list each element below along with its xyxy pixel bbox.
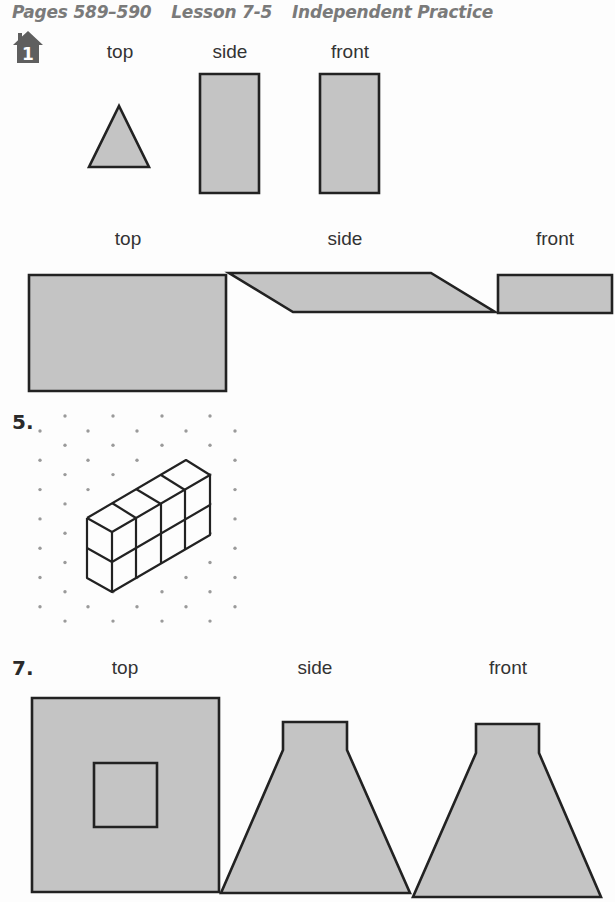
grid-dot [233,576,236,579]
grid-dot [86,605,89,608]
grid-dot [38,429,41,432]
grid-dot [63,561,66,564]
grid-dot [135,429,138,432]
front-view-rectangle [320,74,379,193]
problem-3-views [29,273,612,391]
front-view-rectangle [498,275,612,313]
grid-dot [111,444,114,447]
grid-dot [86,459,89,462]
grid-dot [208,444,211,447]
grid-dot [233,605,236,608]
grid-dot [208,619,211,622]
grid-dot [233,517,236,520]
figure-canvas [0,0,615,902]
grid-dot [233,459,236,462]
isometric-cube-solid [87,460,210,592]
worksheet-page: Pages 589–590 Lesson 7-5 Independent Pra… [0,0,615,902]
grid-dot [208,414,211,417]
grid-dot [63,619,66,622]
grid-dot [160,414,163,417]
grid-dot [63,444,66,447]
problem-7-views [32,698,601,897]
top-view-triangle [89,106,149,167]
solid-background [87,460,210,592]
grid-dot [160,619,163,622]
top-view-rectangle [29,275,226,391]
grid-dot [233,429,236,432]
grid-dot [38,488,41,491]
grid-dot [38,459,41,462]
grid-dot [208,561,211,564]
grid-dot [135,605,138,608]
grid-dot [233,547,236,550]
grid-dot [184,429,187,432]
grid-dot [233,488,236,491]
grid-dot [160,444,163,447]
grid-dot [184,576,187,579]
grid-dot [184,605,187,608]
grid-dot [38,517,41,520]
grid-dot [111,619,114,622]
grid-dot [38,605,41,608]
grid-dot [63,590,66,593]
grid-dot [63,473,66,476]
grid-dot [111,414,114,417]
grid-dot [208,590,211,593]
side-view-trapezoid [221,722,410,893]
grid-dot [135,459,138,462]
side-view-rectangle [200,74,259,193]
grid-dot [160,590,163,593]
front-view-trapezoid [413,724,601,897]
grid-dot [63,532,66,535]
grid-dot [63,502,66,505]
problem-1-views [89,74,379,193]
top-view-inner-square [94,763,157,827]
grid-dot [38,576,41,579]
grid-dot [86,488,89,491]
side-view-parallelogram [229,273,495,312]
grid-dot [38,547,41,550]
grid-dot [86,429,89,432]
grid-dot [111,473,114,476]
grid-dot [63,414,66,417]
